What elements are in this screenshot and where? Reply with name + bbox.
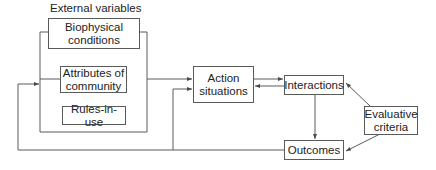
node-line: Evaluative [364,108,417,121]
node-line: community [63,80,124,93]
node-line: criteria [364,121,417,134]
iad-framework-diagram: External variables Biophysicalconditions… [0,0,436,170]
node-line: situations [199,85,248,98]
node-line: Outcomes [288,144,340,157]
biophysical-conditions-node: Biophysicalconditions [48,18,140,49]
external-variables-label: External variables [50,2,141,14]
node-line: Biophysical [65,21,123,34]
attributes-of-community-node: Attributes ofcommunity [60,66,127,93]
action-situations-node: Actionsituations [193,66,254,103]
node-line: Action [199,72,248,85]
node-line: conditions [65,34,123,47]
node-line: Attributes of [63,67,124,80]
node-line: Interactions [284,79,343,92]
evaluative-criteria-node: Evaluativecriteria [364,106,418,135]
node-line: Rules-in-use [63,103,125,129]
outcomes-node: Outcomes [284,140,344,160]
interactions-node: Interactions [284,75,344,95]
rules-in-use-node: Rules-in-use [62,106,126,125]
